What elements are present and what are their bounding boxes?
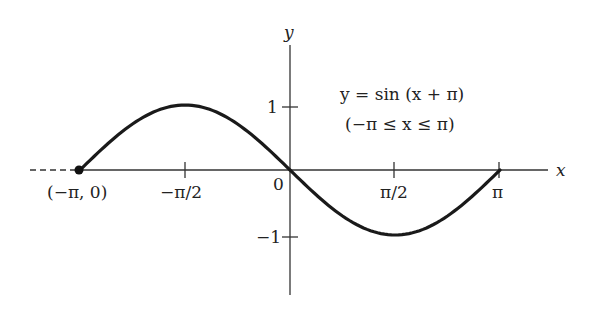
tick-label-neg-half-pi: −π/2	[160, 182, 202, 202]
domain-label: (−π ≤ x ≤ π)	[345, 114, 455, 134]
tick-label-y-neg-one: −1	[256, 227, 281, 247]
x-axis-label: x	[556, 160, 566, 180]
equation-label: y = sin (x + π)	[339, 84, 464, 104]
y-axis-label: y	[283, 22, 294, 42]
tick-label-neg-pi: (−π, 0)	[47, 182, 107, 202]
tick-label-half-pi: π/2	[380, 182, 408, 202]
tick-label-pi: π	[492, 182, 503, 202]
chart-canvas: y x (−π, 0) −π/2 0 π/2 π 1 −1 y = sin (x…	[0, 0, 595, 313]
start-point-marker	[75, 166, 84, 175]
chart-figure: y x (−π, 0) −π/2 0 π/2 π 1 −1 y = sin (x…	[0, 0, 595, 313]
tick-label-zero: 0	[273, 174, 284, 194]
tick-label-y-one: 1	[267, 97, 278, 117]
